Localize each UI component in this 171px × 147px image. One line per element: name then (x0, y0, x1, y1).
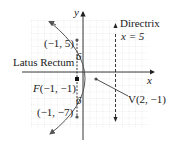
vertex-label: V(2, −1) (128, 93, 166, 106)
focus-point (75, 77, 79, 81)
directrix-equation: x = 5 (120, 30, 145, 42)
focus-coords: (−1, −1) (40, 82, 77, 95)
y-axis-label: y (73, 6, 79, 18)
focus-label: F(−1, −1) (32, 82, 76, 95)
latus-rectum-label: Latus Rectum (13, 56, 75, 68)
half-length-top-label: 6 (76, 50, 82, 62)
parabola-diagram: x y Directrix x = 5 (−1, 5) 6 Latus Rect… (0, 0, 171, 147)
upper-endpoint-label: (−1, 5) (44, 37, 74, 50)
x-axis-label: x (146, 74, 152, 86)
upper-endpoint-point (75, 38, 78, 41)
lower-endpoint-label: (−1, −7) (37, 106, 74, 119)
lower-endpoint-point (75, 115, 78, 118)
half-length-bottom-label: 6 (76, 94, 82, 106)
directrix-title: Directrix (120, 17, 160, 29)
